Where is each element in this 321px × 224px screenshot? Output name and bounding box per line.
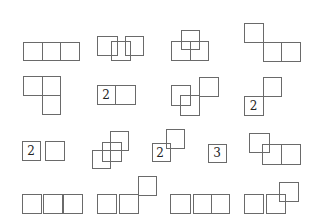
puzzle-figure-canvas: 22223 <box>0 0 321 224</box>
square-number-label: 3 <box>213 146 221 160</box>
square <box>263 145 282 165</box>
square <box>200 78 219 97</box>
figure-r4c2 <box>98 177 157 214</box>
square <box>267 195 286 214</box>
square <box>245 24 264 43</box>
figure-r1c4 <box>245 24 301 62</box>
square <box>250 134 270 153</box>
square <box>46 142 65 161</box>
square <box>167 130 185 149</box>
figure-r1c1 <box>24 43 80 61</box>
square <box>24 43 43 61</box>
square <box>282 43 301 62</box>
square <box>93 151 111 169</box>
figure-r3c4 <box>250 134 301 165</box>
figure-r4c4 <box>245 183 299 214</box>
square <box>111 132 129 151</box>
figure-r3c3b: 3 <box>209 145 227 163</box>
square <box>23 195 42 214</box>
square <box>264 43 282 62</box>
square <box>61 43 80 61</box>
square <box>116 86 136 105</box>
square <box>139 177 157 196</box>
square <box>98 195 117 214</box>
square <box>98 37 118 56</box>
figure-r3c2 <box>93 132 129 169</box>
square <box>171 195 191 214</box>
square <box>264 78 282 97</box>
square-number-label: 2 <box>102 88 110 102</box>
figure-r3c3: 2 <box>153 130 185 162</box>
square <box>112 42 131 61</box>
square <box>43 96 61 115</box>
figure-r2c2: 2 <box>98 86 136 105</box>
square <box>282 145 301 165</box>
square <box>245 195 264 214</box>
square <box>212 195 230 214</box>
figure-r2c4: 2 <box>245 78 282 116</box>
figure-r1c3 <box>172 31 209 61</box>
square <box>120 195 139 214</box>
square-number-label: 2 <box>156 146 164 160</box>
square <box>126 37 144 56</box>
square <box>194 195 212 214</box>
figure-r2c3 <box>172 78 219 116</box>
square-number-label: 2 <box>27 144 35 158</box>
square <box>44 195 63 214</box>
figure-r4c1 <box>23 195 83 214</box>
figure-r1c2 <box>98 37 144 61</box>
figure-r3c1: 2 <box>23 142 65 161</box>
square <box>103 143 122 162</box>
square <box>43 43 61 61</box>
figure-r4c3 <box>171 195 230 214</box>
square-number-label: 2 <box>250 99 258 113</box>
square <box>64 195 83 214</box>
square <box>43 77 61 96</box>
figure-r2c1 <box>24 77 61 115</box>
square <box>24 77 43 96</box>
square <box>280 183 299 202</box>
